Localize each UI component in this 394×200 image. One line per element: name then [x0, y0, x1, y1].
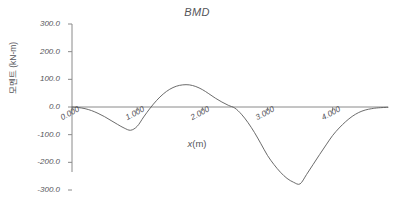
bmd-chart-figure: BMD 모멘트 (kN-m) x(m) 300.0200.0100.00.0-1… — [0, 0, 394, 200]
y-tick-label: -300.0 — [14, 185, 60, 194]
plot-area — [0, 0, 394, 200]
bending-moment-curve — [72, 85, 388, 185]
y-tick-label: -200.0 — [14, 157, 60, 166]
y-tick-label: 300.0 — [14, 19, 60, 28]
axes-group — [68, 24, 388, 190]
y-tick-label: 0.0 — [14, 102, 60, 111]
y-tick-label: -100.0 — [14, 130, 60, 139]
y-tick-label: 200.0 — [14, 47, 60, 56]
y-tick-label: 100.0 — [14, 74, 60, 83]
